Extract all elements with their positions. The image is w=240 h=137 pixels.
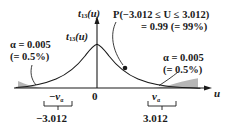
- x-axis-label: u: [214, 87, 220, 99]
- probability-leader-dot: [123, 66, 128, 71]
- alpha-right-annotation: α = 0.005 (= 0.5%): [163, 52, 204, 76]
- probability-annotation-line2: = 0.99 (= 99%): [113, 21, 209, 33]
- t-distribution-figure: t13(u) t13(u) P(−3.012 ≤ U ≤ 3.012) = 0.…: [0, 0, 240, 137]
- probability-annotation: P(−3.012 ≤ U ≤ 3.012) = 0.99 (= 99%): [113, 9, 209, 33]
- right-critical-subscript: α: [157, 97, 160, 103]
- density-label-top: t13(u): [78, 8, 100, 20]
- origin-label: 0: [92, 90, 98, 102]
- alpha-right-line1: α = 0.005: [163, 52, 204, 63]
- alpha-left-line1: α = 0.005: [10, 39, 51, 50]
- right-critical-symbol: vα: [152, 90, 160, 103]
- alpha-left-annotation: α = 0.005 (= 0.5%): [10, 39, 51, 63]
- right-critical-value: 3.012: [143, 112, 168, 124]
- density-label-top-arg: (u): [87, 8, 100, 19]
- left-critical-symbol: −vα: [49, 90, 63, 103]
- density-label-flank-arg: (u): [75, 31, 88, 42]
- alpha-right-line2: (= 0.5%): [163, 64, 202, 75]
- right-tail-shading: [153, 78, 198, 88]
- left-critical-value: −3.012: [36, 112, 67, 124]
- probability-annotation-line1: P(−3.012 ≤ U ≤ 3.012): [113, 9, 209, 20]
- alpha-left-leader-line: [31, 65, 36, 85]
- left-critical-subscript: α: [60, 97, 63, 103]
- alpha-left-line2: (= 0.5%): [10, 51, 49, 62]
- density-label-flank: t13(u): [66, 31, 88, 43]
- x-axis-arrowhead: [204, 85, 212, 90]
